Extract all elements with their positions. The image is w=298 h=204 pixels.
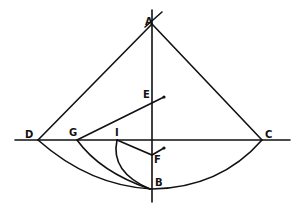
line-DA bbox=[38, 24, 152, 140]
label-E: E bbox=[143, 89, 150, 100]
label-B: B bbox=[155, 177, 163, 188]
label-A: A bbox=[145, 16, 153, 27]
line-AC bbox=[152, 24, 262, 140]
label-G: G bbox=[69, 127, 77, 138]
endpoint-dot-E bbox=[162, 95, 165, 98]
label-I: I bbox=[115, 127, 119, 138]
arc-GB bbox=[77, 140, 150, 189]
geometry-diagram: A B C D E F G I bbox=[0, 0, 298, 204]
line-IF bbox=[117, 140, 164, 155]
label-C: C bbox=[265, 129, 272, 140]
endpoint-dot-F bbox=[162, 146, 165, 149]
label-F: F bbox=[154, 154, 161, 165]
label-D: D bbox=[25, 129, 33, 140]
line-GE bbox=[77, 97, 164, 140]
arc-DBC bbox=[38, 140, 262, 189]
